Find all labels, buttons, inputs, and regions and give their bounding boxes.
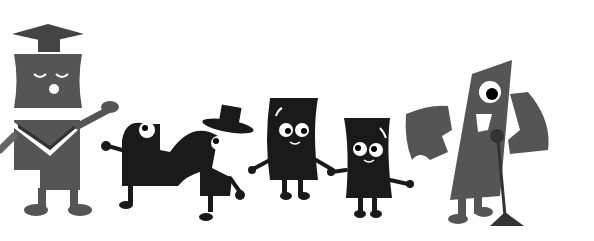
paper-character-2 [327,118,414,218]
doodle-illustration [0,0,594,241]
graduate-character [0,24,119,216]
serpentine-characters [101,104,255,221]
singer-character [406,60,549,226]
paper-character-1 [248,98,333,200]
